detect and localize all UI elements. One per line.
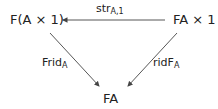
node-f-a-times-1: F(A × 1) (10, 13, 64, 27)
label-str: strA,1 (96, 3, 124, 18)
label-ridf: ridFA (153, 57, 179, 72)
node-fa-times-1: FA × 1 (173, 13, 216, 27)
node-fa: FA (103, 92, 118, 106)
label-frid: FridA (42, 57, 68, 72)
